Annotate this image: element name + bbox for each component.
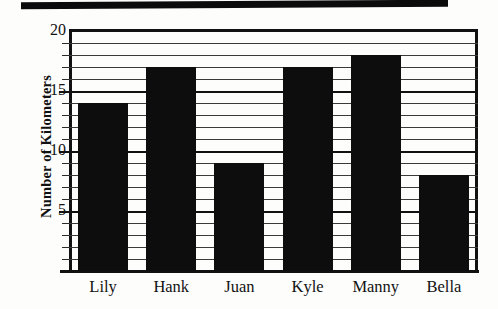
y-axis-tick-label: 15 [40,82,66,98]
gridline-minor [69,127,478,128]
y-axis-tick [62,175,69,176]
y-axis-tick [62,259,69,260]
bar-chart-figure: Number of Kilometers 5101520 LilyHankJua… [0,0,498,309]
y-axis-tick [62,139,69,140]
gridline-minor [69,139,478,140]
gridline-minor [69,199,478,200]
y-axis-tick [62,103,69,104]
y-axis-tick [62,55,69,56]
gridline-minor [69,247,478,248]
bar [78,103,128,271]
gridline-minor [69,187,478,188]
gridline-minor [69,235,478,236]
y-axis-tick-labels: 5101520 [36,0,66,309]
y-axis-tick [62,223,69,224]
gridline-minor [69,259,478,260]
gridline-minor [69,175,478,176]
bar [351,55,401,271]
y-axis-tick [62,127,69,128]
bar [283,67,333,271]
gridline-minor [69,43,478,44]
bar [419,175,469,271]
y-axis-tick [59,91,69,93]
y-axis-tick [62,67,69,68]
gridline-minor [69,223,478,224]
y-axis-tick-label: 10 [40,142,66,158]
gridline-minor [69,163,478,164]
y-axis-tick [59,211,69,213]
gridline-minor [69,103,478,104]
y-axis-tick [62,43,69,44]
gridline-major [61,91,478,93]
y-axis-tick [62,163,69,164]
y-axis-tick-label: 5 [40,202,66,218]
bar [146,67,196,271]
bar [214,163,264,271]
y-axis-tick [59,151,69,153]
x-axis-tick-label: Bella [394,277,494,297]
y-axis-tick [62,187,69,188]
gridline-minor [69,115,478,116]
y-axis-tick [62,235,69,236]
gridline-minor [69,79,478,80]
gridline-minor [69,67,478,68]
y-axis-tick [62,79,69,80]
y-axis-tick [62,115,69,116]
gridline-minor [69,55,478,56]
y-axis-tick [62,247,69,248]
plot-area [69,31,478,271]
y-axis-tick [62,199,69,200]
y-axis-tick-label: 20 [40,22,66,38]
